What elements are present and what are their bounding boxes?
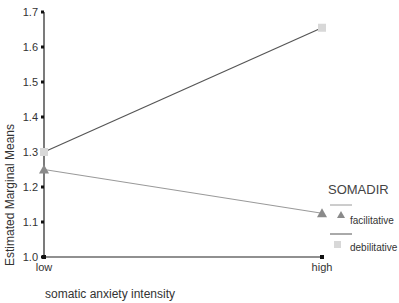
square-marker-icon xyxy=(318,24,326,32)
legend-square-icon xyxy=(334,241,341,248)
y-tick-label: 1.2 xyxy=(23,181,38,193)
line-chart: 1.01.11.21.31.41.51.61.7 low high Estima… xyxy=(0,0,399,303)
square-marker-icon xyxy=(40,148,48,156)
legend-title: SOMADIR xyxy=(328,182,389,197)
y-tick-label: 1.6 xyxy=(23,41,38,53)
legend-triangle-icon xyxy=(337,211,345,218)
y-tick-label: 1.4 xyxy=(23,111,38,123)
y-tick-labels: 1.01.11.21.31.41.51.61.7 xyxy=(23,6,44,263)
series-group xyxy=(39,24,327,218)
x-tick-high: high xyxy=(312,261,333,273)
y-tick-label: 1.3 xyxy=(23,146,38,158)
y-tick-label: 1.1 xyxy=(23,216,38,228)
y-tick-label: 1.7 xyxy=(23,6,38,18)
legend-label-facilitative: facilitative xyxy=(350,215,394,226)
x-axis-title: somatic anxiety intensity xyxy=(45,287,175,301)
x-tick-low: low xyxy=(36,261,53,273)
series-line-debilitative xyxy=(44,28,322,152)
y-axis-title: Estimated Marginal Means xyxy=(3,124,17,266)
triangle-marker-icon xyxy=(39,165,49,174)
legend-label-debilitative: debilitative xyxy=(350,242,398,253)
series-line-facilitative xyxy=(44,170,322,214)
y-tick-label: 1.5 xyxy=(23,76,38,88)
